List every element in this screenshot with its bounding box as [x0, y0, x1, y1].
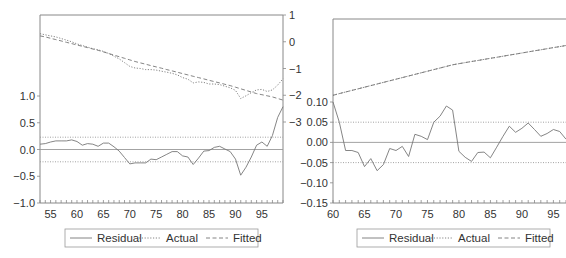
- y-right-tick-label: 1: [289, 9, 295, 21]
- legend-label-residual: Residual: [97, 232, 142, 244]
- x-tick-label: 65: [358, 208, 370, 220]
- legend-label-fitted: Fitted: [525, 232, 554, 244]
- series-residual: [40, 107, 283, 176]
- chart-panel-left: 5560657075808590951.00.50.0−0.5−1.010−1−…: [13, 9, 301, 247]
- x-tick-label: 85: [203, 208, 215, 220]
- y-left-tick-label: 1.0: [20, 90, 35, 102]
- legend-label-actual: Actual: [458, 232, 490, 244]
- y-left-tick-label: −0.5: [13, 170, 35, 182]
- chart-panel-right: 60657075808590950.100.050.00−0.05−0.10−0…: [300, 19, 566, 247]
- y-right-tick-label: −1: [289, 63, 302, 75]
- x-tick-label: 95: [256, 208, 268, 220]
- x-tick-label: 65: [97, 208, 109, 220]
- y-left-tick-label: −0.05: [300, 157, 328, 169]
- y-right-tick-label: −2: [289, 89, 302, 101]
- y-left-tick-label: 0.10: [307, 96, 328, 108]
- figure: 5560657075808590951.00.50.0−0.5−1.010−1−…: [0, 0, 566, 258]
- series-residual: [333, 102, 566, 171]
- series-fitted: [40, 36, 283, 100]
- series-actual: [40, 34, 283, 99]
- y-left-tick-label: 0.5: [20, 117, 35, 129]
- series-fitted: [333, 46, 566, 96]
- legend-label-actual: Actual: [166, 232, 198, 244]
- legend-label-residual: Residual: [389, 232, 434, 244]
- x-tick-label: 70: [390, 208, 402, 220]
- y-left-tick-label: 0.05: [307, 116, 328, 128]
- x-tick-label: 95: [547, 208, 559, 220]
- x-tick-label: 90: [229, 208, 241, 220]
- x-tick-label: 60: [71, 208, 83, 220]
- x-tick-label: 75: [150, 208, 162, 220]
- legend-box: [357, 229, 550, 247]
- series-actual: [333, 46, 566, 96]
- y-right-tick-label: −3: [289, 116, 302, 128]
- y-left-tick-label: 0.00: [307, 136, 328, 148]
- x-tick-label: 60: [327, 208, 339, 220]
- legend-box: [65, 229, 258, 247]
- x-tick-label: 70: [124, 208, 136, 220]
- x-tick-label: 80: [453, 208, 465, 220]
- y-right-tick-label: 0: [289, 36, 295, 48]
- x-tick-label: 75: [421, 208, 433, 220]
- y-left-tick-label: −1.0: [13, 197, 35, 209]
- legend-label-fitted: Fitted: [233, 232, 262, 244]
- y-left-tick-label: −0.15: [300, 197, 328, 209]
- y-left-tick-label: 0.0: [20, 144, 35, 156]
- x-tick-label: 55: [44, 208, 56, 220]
- x-tick-label: 85: [484, 208, 496, 220]
- x-tick-label: 90: [516, 208, 528, 220]
- x-tick-label: 80: [177, 208, 189, 220]
- y-left-tick-label: −0.10: [300, 177, 328, 189]
